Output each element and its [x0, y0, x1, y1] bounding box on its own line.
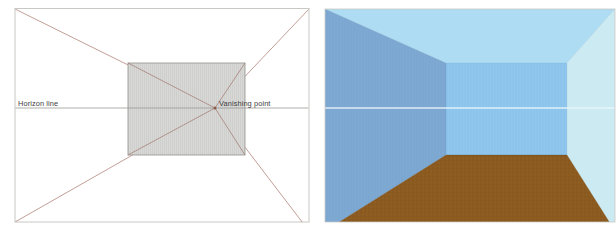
vanishing-point-dot — [214, 107, 217, 110]
back-wall-square — [128, 63, 245, 155]
figure-root: Horizon line Vanishing point — [0, 0, 616, 232]
perspective-room-render — [310, 0, 616, 232]
horizon-line-label: Horizon line — [18, 99, 58, 108]
back-wall-surface — [446, 63, 567, 155]
diagram-canvas: Horizon line Vanishing point — [0, 0, 310, 232]
render-canvas — [310, 0, 616, 232]
vanishing-point-label: Vanishing point — [219, 99, 271, 108]
perspective-construction-diagram: Horizon line Vanishing point — [0, 0, 310, 232]
